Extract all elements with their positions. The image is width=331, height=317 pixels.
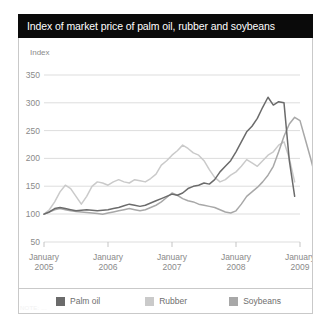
y-tick-350: 350 <box>26 70 40 80</box>
x-tick-2005-month: January <box>29 252 60 262</box>
x-tick-2005-year: 2005 <box>35 262 54 272</box>
y-tick-250: 250 <box>26 126 40 136</box>
legend-swatch-soybeans <box>229 297 238 306</box>
x-tick-2006-year: 2006 <box>99 262 118 272</box>
y-axis-label: Index <box>30 48 50 57</box>
x-tick-2008-year: 2008 <box>227 262 246 272</box>
figure-note: NOTE: ... <box>20 305 47 311</box>
y-tick-50: 50 <box>31 237 41 247</box>
y-tick-300: 300 <box>26 98 40 108</box>
legend-item-palm-oil: Palm oil <box>56 296 100 306</box>
chart-figure: Index of market price of palm oil, rubbe… <box>18 14 313 301</box>
legend-swatch-palm-oil <box>56 297 65 306</box>
line-chart-svg: Index 350 300 250 200 150 100 50 January… <box>19 38 312 287</box>
series-line-palm-oil <box>44 97 295 214</box>
x-tick-2006-month: January <box>93 252 124 262</box>
x-tick-2007-year: 2007 <box>163 262 182 272</box>
y-tick-200: 200 <box>26 153 40 163</box>
legend-item-soybeans: Soybeans <box>229 296 281 306</box>
chart-legend: Palm oil Rubber Soybeans <box>18 288 313 314</box>
series-layer <box>44 97 312 214</box>
legend-swatch-rubber <box>145 297 154 306</box>
legend-item-rubber: Rubber <box>145 296 187 306</box>
x-tick-2007-month: January <box>157 252 188 262</box>
series-line-rubber <box>44 142 295 214</box>
legend-label-rubber: Rubber <box>159 296 187 306</box>
legend-label-soybeans: Soybeans <box>243 296 281 306</box>
y-tick-100: 100 <box>26 209 40 219</box>
page-title: Index of market price of palm oil, rubbe… <box>27 21 275 32</box>
x-tick-2009-year: 2009 <box>291 262 310 272</box>
x-tick-2009-month: January <box>285 252 312 262</box>
legend-label-palm-oil: Palm oil <box>70 296 100 306</box>
x-tick-2008-month: January <box>221 252 252 262</box>
chart-title-bar: Index of market price of palm oil, rubbe… <box>18 14 313 38</box>
y-tick-150: 150 <box>26 181 40 191</box>
chart-plot-container: Index 350 300 250 200 150 100 50 January… <box>18 38 313 289</box>
